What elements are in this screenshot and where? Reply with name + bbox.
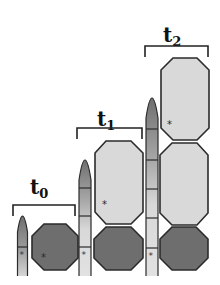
cell-t1-light: *	[95, 141, 143, 224]
marker-asterisk: *	[82, 250, 87, 260]
marker-asterisk: *	[149, 251, 154, 261]
cell-t2-dark	[160, 227, 208, 270]
pillar-t2: *	[146, 98, 158, 276]
marker-asterisk: *	[167, 119, 172, 130]
marker-asterisk: *	[20, 250, 25, 260]
stage-t0: t0 * *	[13, 175, 78, 276]
stage-label-t1: t1	[97, 107, 115, 133]
pillar-t0: *	[18, 216, 28, 276]
cell-t2-light-middle	[160, 143, 208, 225]
bracket-t0	[13, 205, 75, 216]
cell-t0-dark: *	[32, 224, 78, 270]
stage-label-t0: t0	[30, 175, 48, 201]
stage-label-t2: t2	[163, 23, 181, 49]
cell-t1-dark	[94, 227, 143, 270]
cell-t2-light-top: *	[161, 58, 209, 140]
stage-t1: t1 * *	[77, 107, 143, 276]
marker-asterisk: *	[102, 199, 107, 210]
pillar-t1: *	[79, 160, 91, 276]
stage-t2: t2 * *	[145, 23, 209, 276]
marker-asterisk: *	[41, 252, 46, 263]
growth-diagram: t0 * * t1 * *	[0, 0, 220, 285]
